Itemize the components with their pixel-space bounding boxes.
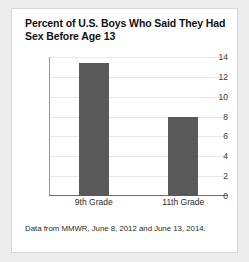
gridline-group [49,57,228,196]
y-axis-tick-label: 14 [209,53,228,61]
gridline [49,156,228,157]
y-axis-tick-label: 2 [209,172,228,180]
chart-plot-area: 02468101214 9th Grade11th Grade [26,53,228,205]
y-axis-tick-label: 4 [209,152,228,160]
y-axis-tick-label: 6 [209,132,228,140]
gridline [49,97,228,98]
chart-footnote: Data from MMWR, June 8, 2012 and June 13… [25,224,231,234]
gridline [49,136,228,137]
bar-group: 11th Grade [168,57,198,196]
chart-card: Percent of U.S. Boys Who Said They Had S… [11,8,238,253]
x-axis-tick-label: 9th Grade [54,198,134,207]
bar-group: 9th Grade [79,57,109,196]
x-axis-tick-label: 11th Grade [143,198,223,207]
y-axis-tick-label: 8 [209,113,228,121]
gridline [49,77,228,78]
y-axis-line [49,57,50,196]
y-axis-tick-label: 10 [209,93,228,101]
x-axis-line [49,195,228,196]
gridline [49,176,228,177]
y-axis-tick-label: 12 [209,73,228,81]
gridline [49,57,228,58]
chart-title: Percent of U.S. Boys Who Said They Had S… [25,17,230,43]
bar [168,117,198,196]
gridline [49,117,228,118]
bar [79,63,109,196]
